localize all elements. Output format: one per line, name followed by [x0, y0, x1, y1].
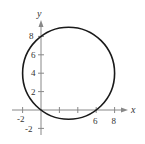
- x-axis-label: x: [130, 104, 136, 115]
- y-tick-label: -2: [25, 124, 33, 134]
- y-axis-label: y: [36, 8, 42, 19]
- x-tick-label: 8: [112, 116, 117, 126]
- x-tick-label: -2: [17, 114, 25, 124]
- x-axis-arrow-icon: [121, 108, 128, 113]
- y-tick-label: 8: [29, 31, 34, 41]
- y-tick-label: 4: [31, 68, 36, 78]
- x-tick-label: 6: [93, 116, 98, 126]
- y-axis-arrow-icon: [39, 20, 44, 27]
- chart: -2 6 8 -2 2 4 6 8 x y: [0, 0, 145, 144]
- y-tick-label: 6: [31, 50, 36, 60]
- y-tick-label: 2: [31, 87, 36, 97]
- circle-curve: [23, 27, 115, 119]
